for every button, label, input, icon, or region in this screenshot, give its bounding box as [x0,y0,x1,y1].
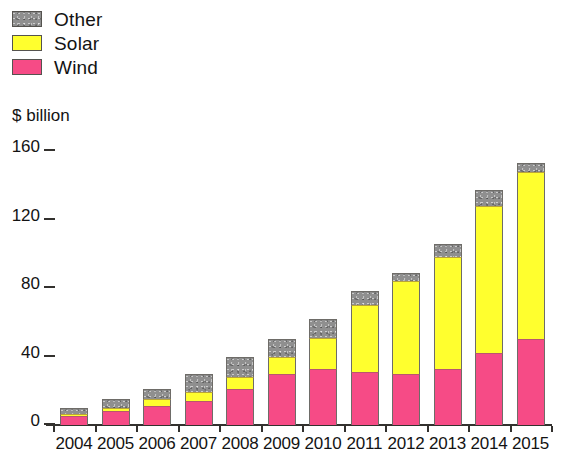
x-axis-tick [136,426,138,432]
bar-2013 [434,244,462,426]
legend-label-wind: Wind [54,58,98,77]
bar-segment-solar [475,206,503,353]
bar-2015 [517,163,545,425]
bar-segment-wind [60,416,88,425]
bar-segment-wind [185,401,213,425]
x-axis-tick [385,426,387,432]
x-axis-tick [302,426,304,432]
x-axis-tick [261,426,263,432]
x-axis-tick [427,426,429,432]
bar-segment-other [102,399,130,408]
bar-segment-wind [226,389,254,425]
bar-2014 [475,190,503,425]
y-axis-title: $ billion [12,106,70,126]
bar-2011 [351,291,379,425]
bar-2008 [226,357,254,425]
legend-label-solar: Solar [54,34,99,53]
y-axis-tick: 160 [44,149,55,151]
y-axis-tick: 0 [44,423,55,425]
bar-segment-other [392,273,420,282]
y-axis-tick: 120 [44,218,55,220]
bar-segment-solar [392,281,420,373]
bar-segment-solar [309,338,337,369]
legend-swatch-solar-icon [12,35,42,51]
x-axis-tick [468,426,470,432]
bar-segment-solar [351,305,379,372]
bar-segment-other [143,389,171,399]
bar-2009 [268,339,296,425]
y-axis-tick-label: 40 [21,343,40,363]
bar-segment-other [60,408,88,415]
y-axis-tick-label: 120 [12,206,40,226]
bar-segment-solar [226,377,254,389]
bar-segment-other [268,339,296,356]
bar-2005 [102,399,130,425]
x-axis-tick [344,426,346,432]
bar-segment-wind [309,369,337,426]
bar-segment-solar [268,357,296,374]
bar-2007 [185,374,213,425]
bar-segment-other [351,291,379,305]
renewable-investment-stacked-bar-chart: Other Solar Wind $ billion 04080120160 2… [0,0,568,459]
x-axis-tick [510,426,512,432]
legend-item-wind: Wind [12,56,232,78]
bar-segment-wind [475,353,503,425]
bar-2004 [60,408,88,425]
bar-segment-wind [517,339,545,425]
bar-segment-other [434,244,462,258]
y-axis-tick-label: 0 [31,411,40,431]
bar-segment-wind [351,372,379,425]
bar-segment-other [517,163,545,172]
bar-segment-solar [185,392,213,401]
y-axis-tick-label: 80 [21,274,40,294]
bar-segment-solar [143,399,171,406]
x-axis-label-2015: 2015 [507,434,555,454]
legend-item-solar: Solar [12,32,232,54]
bar-segment-wind [392,374,420,425]
bar-2006 [143,389,171,425]
y-axis-tick: 80 [44,286,55,288]
x-axis-tick [53,426,55,432]
bar-segment-other [309,319,337,338]
x-axis-tick [219,426,221,432]
legend-label-other: Other [54,10,103,29]
x-axis-tick [551,426,553,432]
bar-2012 [392,273,420,425]
bar-segment-solar [517,172,545,340]
bar-2010 [309,319,337,425]
bar-segment-wind [434,369,462,426]
legend-item-other: Other [12,8,232,30]
y-axis-tick-label: 160 [12,137,40,157]
x-axis-tick [95,426,97,432]
bar-segment-wind [143,406,171,425]
plot-area: 04080120160 [58,146,558,426]
bar-segment-solar [434,257,462,368]
bar-segment-wind [268,374,296,425]
y-axis-tick: 40 [44,355,55,357]
chart-legend: Other Solar Wind [12,8,232,80]
bar-segment-wind [102,411,130,425]
bar-segment-other [185,374,213,393]
bar-segment-other [475,190,503,205]
legend-swatch-wind-icon [12,59,42,75]
legend-swatch-other-icon [12,11,42,27]
x-axis-tick [178,426,180,432]
bar-segment-other [226,357,254,378]
